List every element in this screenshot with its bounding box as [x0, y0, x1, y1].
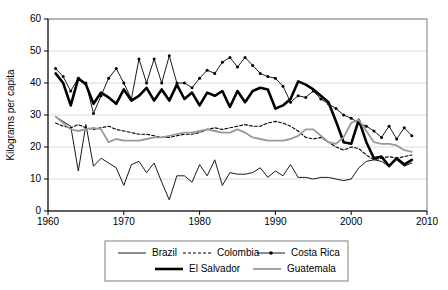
y-axis-tick-label-60: 60: [30, 13, 42, 24]
series-marker: [107, 77, 110, 80]
legend-label-brazil: Brazil: [152, 247, 177, 258]
series-marker: [274, 77, 277, 80]
series-marker: [206, 69, 209, 72]
y-axis-tick-label-40: 40: [30, 77, 42, 88]
x-axis-tick-label-2010: 2010: [416, 216, 439, 227]
series-marker: [54, 67, 57, 70]
y-axis-title: Kilograms per capita: [5, 69, 16, 161]
series-marker: [297, 94, 300, 97]
series-marker: [372, 130, 375, 133]
legend-label-colombia: Colombia: [217, 247, 260, 258]
x-axis-tick-label-1970: 1970: [113, 216, 136, 227]
series-marker: [115, 67, 118, 70]
legend-label-guatemala: Guatemala: [287, 263, 336, 274]
series-marker: [403, 126, 406, 129]
series-marker: [228, 56, 231, 59]
series-marker: [350, 117, 353, 120]
series-marker: [410, 134, 413, 137]
series-marker: [62, 75, 65, 78]
series-marker: [137, 58, 140, 61]
series-marker: [304, 96, 307, 99]
series-marker: [168, 54, 171, 57]
series-marker: [281, 85, 284, 88]
series-marker: [251, 64, 254, 67]
series-marker: [380, 136, 383, 139]
series-marker: [365, 125, 368, 128]
series-marker: [388, 125, 391, 128]
series-marker: [183, 82, 186, 85]
legend-label-el-salvador: El Salvador: [189, 263, 241, 274]
legend-swatch-marker-costa-rica: [269, 251, 273, 255]
x-axis-tick-label-1960: 1960: [37, 216, 60, 227]
y-axis-tick-label-0: 0: [35, 205, 41, 216]
series-marker: [266, 75, 269, 78]
chart-canvas: 0102030405060196019701980199020002010Kil…: [0, 0, 448, 290]
series-marker: [160, 82, 163, 85]
series-marker: [145, 82, 148, 85]
line-chart-figure: 0102030405060196019701980199020002010Kil…: [0, 0, 448, 290]
series-marker: [335, 107, 338, 110]
y-axis-tick-label-30: 30: [30, 109, 42, 120]
series-marker: [122, 82, 125, 85]
series-marker: [236, 66, 239, 69]
series-marker: [244, 56, 247, 59]
x-axis-tick-label-1980: 1980: [188, 216, 211, 227]
series-marker: [395, 138, 398, 141]
series-marker: [259, 72, 262, 75]
series-marker: [198, 77, 201, 80]
legend-label-costa-rica: Costa Rica: [291, 247, 340, 258]
series-marker: [342, 114, 345, 117]
x-axis-tick-label-2000: 2000: [340, 216, 363, 227]
series-marker: [221, 61, 224, 64]
series-marker: [191, 86, 194, 89]
y-axis-tick-label-10: 10: [30, 173, 42, 184]
series-marker: [69, 90, 72, 93]
x-axis-tick-label-1990: 1990: [264, 216, 287, 227]
series-marker: [153, 58, 156, 61]
y-axis-tick-label-50: 50: [30, 45, 42, 56]
series-marker: [213, 72, 216, 75]
series-marker: [92, 112, 95, 115]
y-axis-tick-label-20: 20: [30, 141, 42, 152]
